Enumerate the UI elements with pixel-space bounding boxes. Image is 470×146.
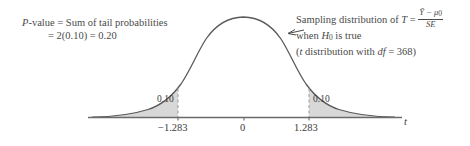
- tick-label-negative-critical: −1.283: [158, 122, 188, 133]
- tick-label-zero: 0: [240, 122, 245, 133]
- density-curve: [92, 17, 395, 117]
- t-distribution-figure: P-value = Sum of tail probabilities = 2(…: [0, 0, 470, 146]
- right-tail-area-label: 0.10: [313, 94, 330, 104]
- x-axis-label: t: [404, 116, 407, 127]
- left-tail-area-label: 0.10: [157, 94, 174, 104]
- distribution-plot: [0, 0, 470, 146]
- tick-label-positive-critical: 1.283: [294, 122, 318, 133]
- arrow-left-icon: [288, 30, 304, 36]
